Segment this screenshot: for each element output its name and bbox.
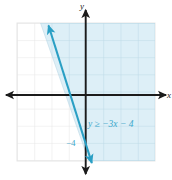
y-intercept-tick-label: −4 — [66, 138, 76, 148]
coordinate-plane: y x −4 y ≥ −3x − 4 — [0, 0, 172, 180]
inequality-label: y ≥ −3x − 4 — [87, 119, 134, 129]
x-axis-label: x — [166, 90, 171, 100]
y-axis-label: y — [79, 1, 84, 11]
graph-figure: y x −4 y ≥ −3x − 4 — [0, 0, 172, 180]
